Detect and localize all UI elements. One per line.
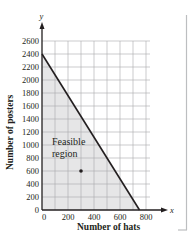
- x-axis-arrow-icon: [161, 208, 168, 213]
- side-bracket: [178, 15, 187, 230]
- y-tick-label: 2000: [22, 75, 39, 85]
- x-axis-title: Number of hats: [77, 222, 140, 232]
- feasible-region-chart: 0200400600800100012001400160018002000220…: [0, 0, 196, 242]
- y-axis-title: Number of posters: [5, 94, 15, 170]
- y-tick-labels: 0200400600800100012001400160018002000220…: [22, 36, 39, 215]
- y-tick-label: 1600: [22, 101, 39, 111]
- y-tick-label: 1000: [22, 140, 39, 150]
- y-tick-label: 1400: [22, 114, 39, 124]
- y-tick-label: 0: [35, 205, 39, 215]
- x-tick-label: 800: [140, 212, 153, 222]
- data-point: [79, 169, 83, 173]
- y-tick-label: 2400: [22, 49, 39, 59]
- x-tick-label: 600: [114, 212, 127, 222]
- y-tick-label: 2200: [22, 62, 39, 72]
- x-tick-label: 400: [88, 212, 101, 222]
- feasible-region-label-line1: Feasible: [52, 136, 86, 147]
- feasible-region-label-line2: region: [52, 148, 78, 159]
- y-tick-label: 400: [26, 179, 39, 189]
- x-tick-labels: 0200400600800: [42, 212, 153, 222]
- y-tick-label: 1200: [22, 127, 39, 137]
- y-tick-label: 2600: [22, 36, 39, 46]
- y-tick-label: 600: [26, 166, 39, 176]
- y-tick-label: 200: [26, 192, 39, 202]
- x-tick-label: 200: [62, 212, 75, 222]
- x-axis-variable: x: [169, 205, 174, 215]
- y-tick-label: 1800: [22, 88, 39, 98]
- x-tick-label: 0: [42, 212, 46, 222]
- y-axis-arrow-icon: [40, 22, 45, 29]
- data-points: [79, 169, 83, 173]
- y-axis-variable: y: [39, 11, 44, 21]
- y-tick-label: 800: [26, 153, 39, 163]
